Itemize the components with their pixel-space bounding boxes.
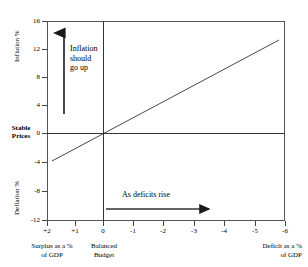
- y-tick-mark: [42, 77, 47, 78]
- caption-deficit-line2: of GDP: [214, 251, 302, 260]
- x-tick-label: +2: [32, 228, 62, 235]
- stable-prices-label: Stable Prices: [2, 124, 40, 140]
- x-tick-label: -3: [179, 228, 209, 235]
- annotation-up-line3: go up: [70, 63, 114, 73]
- y-tick-mark: [42, 49, 47, 50]
- x-tick-mark: [75, 221, 76, 226]
- y-tick-label: 16: [14, 18, 40, 25]
- y-tick-label: -12: [14, 217, 40, 224]
- x-tick-label: -4: [209, 228, 239, 235]
- x-tick-mark: [103, 221, 104, 226]
- zero-inflation-reference-line: [47, 133, 285, 134]
- y-tick-mark: [42, 21, 47, 22]
- caption-balanced-line2: Budget: [76, 251, 132, 260]
- x-tick-label: 0: [88, 228, 118, 235]
- annotation-as-deficits-rise: As deficits rise: [122, 190, 170, 199]
- x-tick-mark: [163, 221, 164, 226]
- x-tick-mark: [285, 221, 286, 226]
- annotation-up-line2: should: [70, 54, 114, 64]
- y-tick-label: 8: [14, 74, 40, 81]
- y-tick-mark: [42, 191, 47, 192]
- x-tick-label: -6: [270, 228, 300, 235]
- stable-prices-line2: Prices: [2, 132, 40, 140]
- y-tick-label: 4: [14, 102, 40, 109]
- x-tick-mark: [255, 221, 256, 226]
- caption-deficit: Deficit as a % of GDP: [214, 242, 302, 259]
- x-tick-label: -2: [148, 228, 178, 235]
- x-tick-mark: [47, 221, 48, 226]
- y-tick-mark: [42, 162, 47, 163]
- x-tick-label: +1: [60, 228, 90, 235]
- stable-prices-line1: Stable: [2, 124, 40, 132]
- caption-balanced-budget: Balanced Budget: [76, 242, 132, 259]
- y-axis-title-inflation: Inflation %: [14, 30, 21, 62]
- x-tick-label: -1: [118, 228, 148, 235]
- y-tick-mark: [42, 105, 47, 106]
- y-tick-mark: [42, 133, 47, 134]
- x-tick-mark: [194, 221, 195, 226]
- caption-deficit-line1: Deficit as a %: [214, 242, 302, 251]
- y-axis-title-deflation: Deflation %: [14, 181, 21, 215]
- chart-figure: 16 12 8 4 0 -4 -8 -12 +2 +1 0 -1 -2 -3 -…: [0, 0, 308, 267]
- annotation-inflation-should-go-up: Inflation should go up: [70, 44, 114, 73]
- x-tick-label: -5: [240, 228, 270, 235]
- y-tick-label: -4: [14, 159, 40, 166]
- annotation-up-line1: Inflation: [70, 44, 114, 54]
- x-tick-mark: [224, 221, 225, 226]
- x-tick-mark: [133, 221, 134, 226]
- caption-balanced-line1: Balanced: [76, 242, 132, 251]
